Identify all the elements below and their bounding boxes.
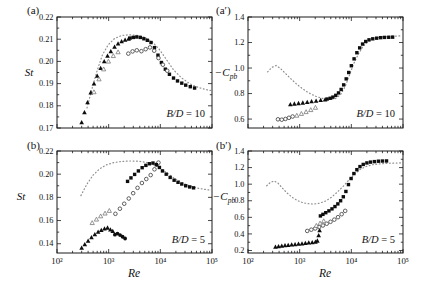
- annotation-b-prime: B/D = 5: [315, 234, 395, 246]
- annotation-a-prime: B/D = 10: [315, 108, 395, 120]
- panel-b-label: (b): [27, 139, 40, 151]
- svg-text:0.6: 0.6: [234, 213, 244, 222]
- svg-text:0.20: 0.20: [39, 57, 54, 66]
- svg-text:10⁵: 10⁵: [206, 256, 218, 266]
- y-axis-label-b-prime-text: −C: [213, 190, 228, 202]
- series-filled-triangles: [79, 225, 115, 249]
- y-tick-labels: 0.140.160.180.200.22: [39, 147, 54, 249]
- y-axis-label-a-prime: −Cpb: [206, 66, 246, 81]
- panel-a-prime-label: (a′): [216, 4, 231, 16]
- svg-text:0.16: 0.16: [39, 216, 54, 225]
- series-open-circles: [127, 46, 170, 73]
- series-open-circles: [276, 115, 294, 122]
- svg-text:1.4: 1.4: [234, 13, 245, 22]
- series-open-triangles: [90, 208, 111, 224]
- annotation-a-italic: B/D: [166, 108, 183, 119]
- series-filled-triangles: [288, 97, 327, 106]
- annotation-b-italic: B/D: [172, 234, 189, 245]
- svg-text:10⁵: 10⁵: [397, 256, 409, 266]
- annotation-a-prime-italic: B/D: [356, 108, 373, 119]
- series-filled-squares: [126, 161, 195, 189]
- svg-text:10²: 10²: [242, 256, 254, 266]
- svg-text:10³: 10³: [103, 256, 115, 266]
- svg-text:0.6: 0.6: [234, 115, 244, 124]
- series-filled-squares: [128, 35, 196, 89]
- x-axis-label-b: Re: [114, 267, 154, 280]
- svg-text:0.17: 0.17: [39, 124, 54, 133]
- svg-text:0.22: 0.22: [39, 13, 54, 22]
- y-axis-label-b: St: [1, 190, 41, 205]
- y-axis-label-a-text: St: [25, 66, 34, 78]
- svg-text:0.4: 0.4: [234, 230, 245, 239]
- figure: 0.170.180.190.200.210.220.60.81.01.21.40…: [0, 0, 427, 288]
- x-tick-labels: 10²10³10⁴10⁵: [242, 256, 409, 266]
- y-axis-label-a: St: [9, 66, 49, 81]
- x-tick-labels: 10²10³10⁴10⁵: [51, 256, 218, 266]
- annotation-b-rest: = 5: [189, 234, 205, 245]
- svg-text:10⁴: 10⁴: [345, 256, 357, 266]
- svg-text:10²: 10²: [51, 256, 63, 266]
- svg-text:10³: 10³: [294, 256, 306, 266]
- panel-a-label: (a): [27, 4, 39, 16]
- annotation-b-prime-rest: = 5: [379, 234, 395, 245]
- y-axis-label-a-prime-text: −C: [215, 66, 230, 78]
- annotation-a: B/D = 10: [125, 108, 205, 120]
- svg-text:1.4: 1.4: [234, 147, 245, 156]
- x-axis-label-b-prime: Re: [305, 267, 345, 280]
- series-dotted-curve: [267, 163, 402, 204]
- svg-text:0.8: 0.8: [234, 89, 244, 98]
- series-dotted-curve: [268, 36, 402, 100]
- svg-text:0.18: 0.18: [39, 101, 54, 110]
- svg-text:0.20: 0.20: [39, 170, 54, 179]
- y-axis-label-b-text: St: [17, 190, 26, 202]
- svg-text:1.0: 1.0: [234, 180, 244, 189]
- svg-text:0.2: 0.2: [234, 246, 244, 255]
- svg-text:1.2: 1.2: [234, 163, 244, 172]
- series-filled-squares: [319, 159, 389, 217]
- svg-text:0.22: 0.22: [39, 147, 54, 156]
- annotation-b: B/D = 5: [125, 234, 205, 246]
- svg-text:10⁴: 10⁴: [154, 256, 166, 266]
- annotation-a-prime-rest: = 10: [373, 108, 395, 119]
- svg-text:0.21: 0.21: [39, 35, 54, 44]
- annotation-a-rest: = 10: [183, 108, 205, 119]
- y-axis-label-a-prime-sub: pb: [230, 72, 238, 81]
- svg-text:0.18: 0.18: [39, 193, 54, 202]
- series-open-circles: [114, 161, 161, 216]
- panel-b: 0.140.160.180.200.2210²10³10⁴10⁵: [39, 147, 218, 266]
- svg-text:0.14: 0.14: [39, 239, 54, 248]
- svg-text:1.2: 1.2: [234, 38, 244, 47]
- panel-b-prime: 0.20.40.60.81.01.21.410²10³10⁴10⁵: [234, 147, 409, 266]
- annotation-b-prime-italic: B/D: [362, 234, 379, 245]
- y-axis-label-b-prime: −Cpb: [204, 190, 244, 205]
- panel-b-prime-label: (b′): [216, 139, 231, 151]
- y-axis-label-b-prime-sub: pb: [228, 196, 236, 205]
- series-filled-squares: [325, 35, 394, 100]
